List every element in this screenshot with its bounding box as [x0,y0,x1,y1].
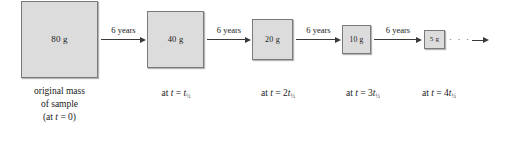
at-word-2: at [261,88,270,98]
half-life-subscript-2: ½ [290,93,295,99]
time-caption-1: at t = t½ [145,87,207,103]
sample-mass-label-1: 80 g [51,35,68,44]
decay-arrow-1: 6 years [101,35,146,44]
equals-sign-3: = [358,88,368,98]
original-mass-line-3: (at t = 0) [10,111,109,124]
time-caption-3: at t = 3t½ [328,87,398,103]
arrow-shaft-icon [207,39,246,40]
decay-arrow-2: 6 years [207,35,251,44]
sample-mass-label-5: 5 g [430,36,439,43]
decay-arrow-3: 6 years [296,35,341,44]
arrow-shaft-icon [472,40,484,41]
half-life-subscript-4: ½ [451,93,456,99]
at-word-3: at [346,88,355,98]
sample-mass-label-4: 10 g [350,36,364,44]
time-zero-value: = 0) [58,112,76,122]
sample-box-1: 80 g [21,1,98,78]
ellipsis-icon: · · · [449,35,471,44]
at-word-4: at [422,88,431,98]
at-word-1: at [161,88,170,98]
continuation-arrow: · · · [449,36,489,44]
arrow-shaft-icon [374,39,417,40]
sample-box-4: 10 g [342,25,371,54]
equals-sign-2: = [273,88,283,98]
sample-box-2: 40 g [147,11,204,68]
arrow-shaft-icon [101,39,141,40]
arrow-head-icon [335,37,341,43]
original-mass-line-1: original mass [10,85,109,98]
sample-box-3: 20 g [252,19,293,60]
arrow-shaft-icon [296,39,336,40]
time-caption-4: at t = 4t½ [404,87,474,103]
equals-sign-1: = [173,88,183,98]
paren-open: (at [43,112,55,122]
decay-arrow-label-1: 6 years [101,26,146,35]
arrow-head-icon [140,37,146,43]
time-caption-2: at t = 2t½ [243,87,313,103]
decay-diagram: 80 g 6 years 40 g 6 years 20 g 6 years 1… [0,0,505,150]
decay-arrow-label-3: 6 years [296,26,341,35]
half-life-subscript-1: ½ [186,93,191,99]
half-life-subscript-3: ½ [375,93,380,99]
arrow-head-icon [483,37,489,43]
arrow-head-icon [245,37,251,43]
original-mass-line-2: of sample [10,98,109,111]
arrow-head-icon [416,37,422,43]
decay-arrow-4: 6 years [374,35,422,44]
sample-mass-label-3: 20 g [265,36,280,44]
original-mass-caption: original mass of sample (at t = 0) [10,85,109,124]
equals-sign-4: = [434,88,444,98]
decay-arrow-label-2: 6 years [207,26,251,35]
sample-mass-label-2: 40 g [168,35,184,44]
decay-arrow-label-4: 6 years [374,26,422,35]
sample-box-5: 5 g [424,30,445,49]
